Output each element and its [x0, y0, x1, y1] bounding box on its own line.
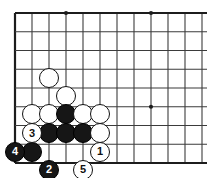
move-number-label: 3 — [23, 124, 41, 142]
go-stone-white — [39, 68, 59, 88]
go-stone-white — [90, 123, 110, 143]
move-number-label: 2 — [40, 161, 58, 178]
star-points — [64, 11, 153, 109]
go-stone-white-move-5: 5 — [73, 160, 93, 178]
go-stone-white-move-3: 3 — [22, 123, 42, 143]
move-number-label: 4 — [6, 143, 24, 161]
go-stone-black — [22, 142, 42, 162]
go-stone-white-move-1: 1 — [90, 142, 110, 162]
go-stone-black-move-4: 4 — [5, 142, 25, 162]
go-board-diagram: 34125 — [0, 0, 210, 178]
go-stone-black-move-2: 2 — [39, 160, 59, 178]
move-number-label: 1 — [91, 143, 109, 161]
move-number-label: 5 — [74, 161, 92, 178]
